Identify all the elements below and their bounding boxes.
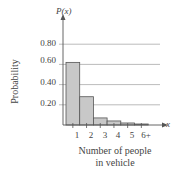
x-tick-label: 2	[84, 130, 98, 140]
y-axis-symbol: P(x)	[56, 6, 72, 16]
y-axis-title: Probability	[9, 59, 20, 103]
y-tick-label: 0.60	[32, 55, 56, 65]
x-axis-title: Number of people in vehicle	[65, 145, 165, 169]
x-tick-label: 1	[70, 130, 84, 140]
probability-histogram: P(x) Probability 0.80 0.60 0.40 0.20 1 2…	[0, 0, 187, 187]
bar	[80, 97, 94, 125]
y-tick-label: 0.20	[32, 98, 56, 108]
x-tick-label: 6+	[139, 130, 153, 140]
y-tick-label: 0.80	[32, 38, 56, 48]
bar	[66, 62, 80, 125]
x-tick-label: 5	[125, 130, 139, 140]
x-axis-title-line-1: Number of people	[65, 145, 165, 157]
x-axis-title-line-2: in vehicle	[65, 157, 165, 169]
x-tick-label: 3	[98, 130, 112, 140]
x-axis-symbol: x	[166, 119, 170, 129]
x-tick-label: 4	[111, 130, 125, 140]
y-tick-label: 0.40	[32, 77, 56, 87]
